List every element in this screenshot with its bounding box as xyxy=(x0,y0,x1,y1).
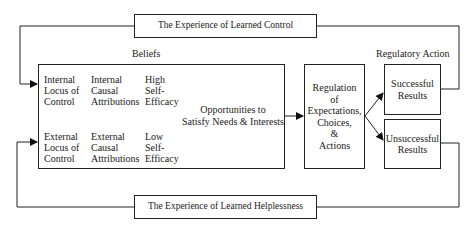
internal-locus-of-control: Internal Locus of Control xyxy=(44,74,79,107)
arrow-to-unsuccessful xyxy=(365,116,383,140)
beliefs-heading: Beliefs xyxy=(132,48,160,59)
low-self-efficacy: Low Self- Efficacy xyxy=(145,131,179,164)
unsuccessful-results-box: Unsuccessful Results xyxy=(384,119,441,169)
opportunities-to-satisfy-needs: Opportunities to Satisfy Needs & Interes… xyxy=(182,104,284,128)
successful-results-box: Successful Results xyxy=(384,64,441,115)
regulatory-action-heading: Regulatory Action xyxy=(376,48,450,59)
internal-causal-attributions: Internal Causal Attributions xyxy=(91,74,139,107)
learned-helplessness-box: The Experience of Learned Helplessness xyxy=(134,195,317,219)
high-self-efficacy: High Self- Efficacy xyxy=(145,74,179,107)
arrow-to-successful xyxy=(365,93,383,116)
external-causal-attributions: External Causal Attributions xyxy=(91,131,139,164)
external-locus-of-control: External Locus of Control xyxy=(44,131,79,164)
regulation-box: Regulation of Expectations, Choices, & A… xyxy=(304,64,365,169)
learned-helplessness-label: The Experience of Learned Helplessness xyxy=(148,201,303,213)
learned-control-box: The Experience of Learned Control xyxy=(134,14,317,38)
learned-control-label: The Experience of Learned Control xyxy=(158,20,293,32)
